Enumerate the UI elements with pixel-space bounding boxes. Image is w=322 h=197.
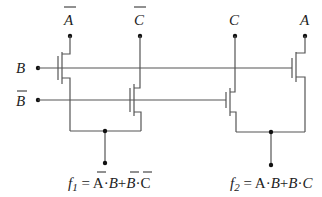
circuit-diagram: A C C A B B: [0, 0, 322, 197]
equation-f1: f1 = A·B+B·C: [68, 172, 152, 193]
svg-text:f1 = A·B+B·C: f1 = A·B+B·C: [68, 175, 150, 193]
transistor-1: [58, 36, 70, 131]
input-label-a-bar: A: [63, 7, 76, 28]
svg-text:B: B: [16, 60, 25, 76]
input-label-c: C: [229, 12, 240, 28]
input-label-b: B: [16, 60, 25, 76]
svg-text:C: C: [134, 12, 145, 28]
transistor-3: [226, 36, 236, 132]
input-label-b-bar: B: [16, 91, 27, 109]
equation-f2: f2 = A·B+B·C: [230, 175, 313, 193]
svg-text:B: B: [16, 93, 25, 109]
input-label-c-bar: C: [134, 7, 146, 28]
transistor-4: [292, 36, 305, 132]
svg-text:A: A: [63, 12, 74, 28]
svg-text:A: A: [299, 12, 310, 28]
svg-text:C: C: [229, 12, 240, 28]
output-bus-f2: [236, 130, 305, 167]
svg-text:f2 = A·B+B·C: f2 = A·B+B·C: [230, 175, 313, 193]
input-label-a: A: [299, 12, 310, 28]
transistor-2: [130, 36, 141, 131]
output-bus-f1: [70, 129, 141, 165]
